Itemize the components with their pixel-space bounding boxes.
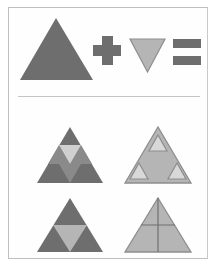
option-a-triangle-with-center-band[interactable]	[37, 127, 103, 183]
option-d-triangle-with-cross-lines[interactable]	[125, 198, 191, 252]
triangle-up-large	[20, 18, 93, 80]
option-b-triangle-with-three-small-triangles[interactable]	[125, 127, 191, 183]
option-c-triangle-with-inverted-light-triangle[interactable]	[37, 198, 103, 252]
equals-operator-icon	[173, 39, 201, 65]
plus-operator-icon	[93, 36, 121, 65]
prompt-row	[20, 18, 201, 80]
triangle-down-small	[130, 39, 165, 72]
